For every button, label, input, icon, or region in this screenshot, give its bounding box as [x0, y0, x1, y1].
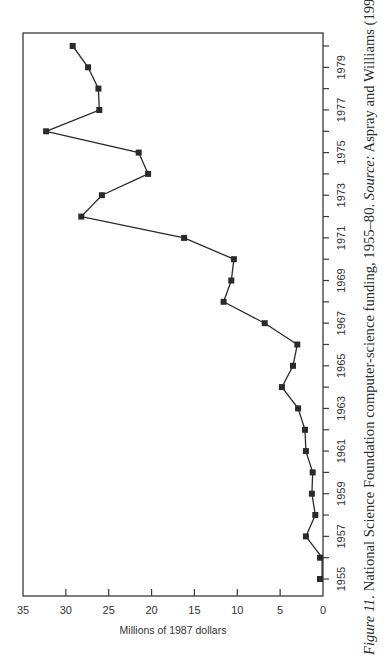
x-tick-label: 1959 [335, 481, 347, 505]
data-point-marker [290, 363, 296, 369]
x-tick-label: 1957 [335, 524, 347, 548]
funding-series-line [46, 46, 322, 579]
data-point-marker [96, 107, 102, 113]
y-tick-label: 5 [277, 604, 283, 616]
data-point-marker [262, 320, 268, 326]
data-point-marker [99, 192, 105, 198]
x-tick-label: 1967 [335, 311, 347, 335]
x-tick-labels: 1955195719591961196319651967196919711973… [335, 55, 347, 591]
data-point-markers [43, 43, 323, 582]
y-tick-label: 10 [231, 604, 243, 616]
x-tick-label: 1971 [335, 226, 347, 250]
data-point-marker [310, 469, 316, 475]
data-point-marker [70, 43, 76, 49]
rotated-figure: 1955195719591961196319651967196919711973… [0, 0, 388, 668]
data-point-marker [317, 555, 323, 561]
data-point-marker [136, 150, 142, 156]
data-point-marker [303, 448, 309, 454]
y-axis-title: Millions of 1987 dollars [120, 624, 227, 636]
data-point-marker [231, 256, 237, 262]
data-point-marker [295, 405, 301, 411]
x-tick-label: 1969 [335, 268, 347, 292]
data-point-marker [221, 299, 227, 305]
data-point-marker [302, 427, 308, 433]
caption-source-label: Source: [361, 155, 377, 200]
y-tick-label: 30 [60, 604, 72, 616]
y-tick-label: 25 [103, 604, 115, 616]
y-tick-label: 20 [145, 604, 157, 616]
data-point-marker [294, 342, 300, 348]
data-point-marker [312, 512, 318, 518]
caption-source-text: Aspray and Williams (1994). [361, 0, 377, 155]
x-tick-label: 1979 [335, 55, 347, 79]
x-tick-label: 1961 [335, 439, 347, 463]
data-point-marker [303, 533, 309, 539]
data-point-marker [85, 64, 91, 70]
x-tick-label: 1973 [335, 183, 347, 207]
data-point-marker [317, 576, 323, 582]
data-point-marker [228, 278, 234, 284]
axis-ticks [66, 46, 329, 596]
caption-text: National Science Foundation computer-sci… [361, 200, 377, 595]
x-tick-label: 1955 [335, 567, 347, 591]
y-tick-label: 15 [188, 604, 200, 616]
x-tick-label: 1975 [335, 140, 347, 164]
data-point-marker [95, 86, 101, 92]
data-point-marker [145, 171, 151, 177]
line-chart: 1955195719591961196319651967196919711973… [0, 0, 388, 668]
x-tick-label: 1965 [335, 354, 347, 378]
data-point-marker [78, 214, 84, 220]
x-tick-label: 1963 [335, 396, 347, 420]
data-point-marker [279, 384, 285, 390]
data-point-marker [43, 128, 49, 134]
y-tick-label: 0 [320, 604, 326, 616]
plot-frame [23, 33, 323, 596]
caption-figure-label: Figure 11. [361, 595, 377, 655]
data-point-marker [181, 235, 187, 241]
figure-caption: Figure 11. National Science Foundation c… [361, 31, 378, 655]
x-tick-label: 1977 [335, 98, 347, 122]
y-tick-labels: 05101520253035 [17, 604, 326, 616]
y-tick-label: 35 [17, 604, 29, 616]
data-point-marker [309, 491, 315, 497]
